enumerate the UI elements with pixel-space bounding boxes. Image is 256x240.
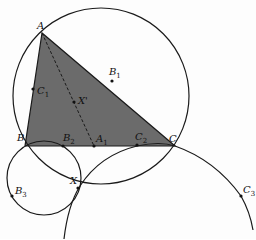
geometry-diagram: A B C A1 B1 C1 B2 C2 B3 C3 X X' bbox=[0, 0, 256, 239]
label-b: B bbox=[17, 133, 24, 143]
label-c1: C1 bbox=[37, 86, 49, 100]
label-b1: B1 bbox=[109, 67, 121, 81]
label-x: X bbox=[70, 176, 77, 186]
point-c1 bbox=[31, 87, 34, 90]
label-a: A bbox=[37, 21, 44, 31]
arc-c bbox=[64, 144, 253, 240]
label-c: C bbox=[169, 134, 177, 144]
label-x-prime: X' bbox=[78, 96, 88, 106]
point-x-prime bbox=[72, 100, 75, 103]
label-b3: B3 bbox=[15, 186, 27, 200]
label-b2: B2 bbox=[63, 133, 75, 147]
label-c2: C2 bbox=[135, 132, 147, 146]
label-a1: A1 bbox=[96, 134, 108, 148]
point-x bbox=[76, 186, 79, 189]
label-c3: C3 bbox=[243, 185, 255, 199]
point-b3 bbox=[10, 194, 13, 197]
diagram-canvas bbox=[0, 0, 256, 239]
